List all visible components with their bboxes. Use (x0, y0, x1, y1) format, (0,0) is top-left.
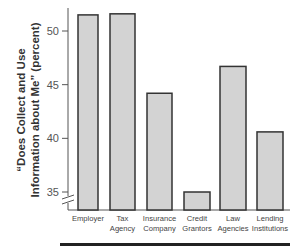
bar-employer (78, 15, 98, 210)
y-axis-label: “Does Collect and Use Information about … (4, 20, 52, 200)
y-axis-label-line-1: “Does Collect and Use (14, 22, 28, 197)
bar-tax-agency (110, 14, 135, 210)
bottom-rule (60, 243, 290, 246)
bar-credit-grantors (184, 192, 210, 210)
bar-lending-institutions (257, 132, 283, 210)
bar-chart: 35404550 “Does Collect and Use Informati… (0, 0, 303, 249)
bar-insurance-company (147, 93, 172, 210)
x-tick-label: Lending Institutions (246, 214, 294, 234)
y-axis-label-line-2: Information about Me” (percent) (28, 22, 42, 197)
bar-law-agencies (220, 66, 246, 210)
